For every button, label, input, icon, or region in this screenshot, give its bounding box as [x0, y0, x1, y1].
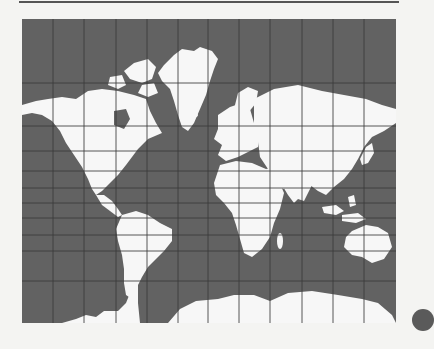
edge-circle — [412, 309, 434, 331]
world-map-svg — [22, 19, 396, 323]
world-map[interactable] — [22, 19, 396, 323]
iceland — [186, 112, 198, 118]
top-rule — [19, 1, 399, 3]
